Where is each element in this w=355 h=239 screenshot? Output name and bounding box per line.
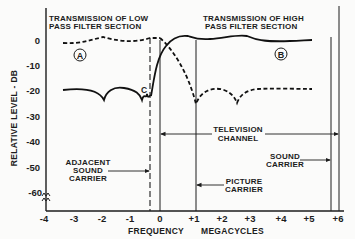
svg-text:+2: +2 [217, 213, 228, 224]
svg-text:B: B [278, 50, 285, 60]
picture-carrier-annotation: PICTURE CARRIER [197, 177, 263, 194]
svg-text:0: 0 [35, 35, 40, 46]
y-tick-labels: 0 -10 -20 -30 -40 -50 -60 [26, 35, 42, 198]
x-axis-title-frequency: FREQUENCY [128, 226, 184, 236]
x-axis-title-megacycles: MEGACYCLES [201, 226, 264, 236]
adjacent-sound-carrier-annotation: ADJACENT SOUND CARRIER [65, 158, 149, 183]
svg-text:PASS FILTER SECTION: PASS FILTER SECTION [49, 22, 141, 31]
sound-carrier-annotation: SOUND CARRIER [266, 152, 330, 169]
svg-text:-10: -10 [26, 60, 40, 71]
svg-text:-60: -60 [28, 187, 42, 198]
marker-b: B [275, 48, 287, 60]
svg-text:+5: +5 [304, 213, 316, 224]
low-pass-stopband-curve [160, 38, 312, 104]
svg-text:-50: -50 [26, 162, 40, 173]
marker-c: C [141, 85, 147, 95]
high-pass-passband-curve [151, 35, 312, 96]
svg-text:+1: +1 [189, 213, 201, 224]
svg-text:PASS FILTER SECTION: PASS FILTER SECTION [205, 22, 297, 31]
svg-text:TELEVISION: TELEVISION [213, 125, 263, 134]
y-axis-title: RELATIVE LEVEL - DB [9, 70, 19, 167]
x-tick-labels: -4 -3 -2 -1 0 +1 +2 +3 +4 +5 +6 [40, 213, 344, 224]
high-pass-stopband-curve [63, 88, 151, 100]
curves [63, 35, 312, 104]
low-pass-passband-curve [63, 37, 160, 43]
svg-text:A: A [77, 51, 84, 61]
svg-text:+4: +4 [276, 213, 288, 224]
filter-response-chart: 0 -10 -20 -30 -40 -50 -60 -4 -3 -2 -1 0 … [0, 0, 355, 239]
svg-text:+3: +3 [245, 213, 256, 224]
marker-a: A [74, 49, 86, 61]
svg-text:-2: -2 [98, 213, 106, 224]
svg-text:-20: -20 [26, 85, 40, 96]
svg-text:-40: -40 [26, 136, 40, 147]
svg-text:-3: -3 [70, 213, 78, 224]
svg-text:CARRIER: CARRIER [225, 185, 263, 194]
high-pass-title: TRANSMISSION OF HIGH PASS FILTER SECTION [203, 14, 304, 31]
svg-text:-30: -30 [26, 111, 40, 122]
svg-text:0: 0 [157, 213, 162, 224]
svg-text:-1: -1 [126, 213, 135, 224]
low-pass-title: TRANSMISSION OF LOW PASS FILTER SECTION [49, 14, 149, 31]
svg-text:CARRIER: CARRIER [69, 174, 107, 183]
svg-text:CARRIER: CARRIER [266, 160, 304, 169]
television-channel-annotation: TELEVISION CHANNEL [161, 125, 338, 143]
svg-text:CHANNEL: CHANNEL [218, 134, 259, 143]
svg-text:-4: -4 [40, 213, 49, 224]
svg-text:+6: +6 [333, 213, 344, 224]
